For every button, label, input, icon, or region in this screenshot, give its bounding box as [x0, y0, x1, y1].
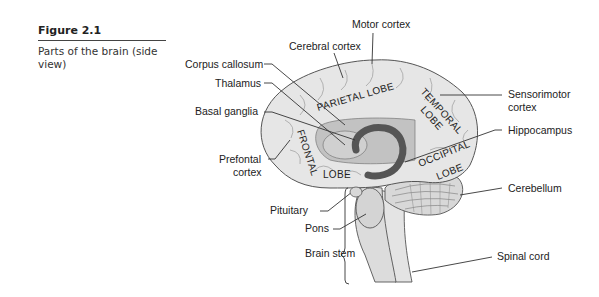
- label-thalamus: Thalamus: [215, 77, 261, 89]
- brain-diagram: PARIETAL LOBE TEMPORAL LOBE OCCIPITAL LO…: [0, 0, 599, 297]
- pituitary-shape: [350, 187, 362, 197]
- leader-cerebellum: [460, 188, 502, 195]
- label-pons: Pons: [305, 222, 329, 234]
- label-basal-ganglia: Basal ganglia: [195, 105, 258, 117]
- label-prefrontal-1: Prefontal: [219, 153, 261, 165]
- brain-stem-brace: [341, 188, 349, 284]
- label-corpus-callosum: Corpus callosum: [185, 58, 263, 70]
- label-sensorimotor-1: Sensorimotor: [508, 88, 571, 100]
- label-sensorimotor-2: cortex: [508, 101, 537, 113]
- label-spinal-cord: Spinal cord: [497, 250, 550, 262]
- label-pituitary: Pituitary: [270, 204, 309, 216]
- label-motor-cortex: Motor cortex: [352, 18, 411, 30]
- frontal-lobe-label-2: LOBE: [323, 169, 351, 180]
- label-brain-stem: Brain stem: [305, 247, 355, 259]
- leader-pituitary: [320, 192, 352, 211]
- leader-motor-cortex: [372, 33, 373, 64]
- label-prefrontal-2: cortex: [233, 166, 262, 178]
- label-hippocampus: Hippocampus: [508, 124, 572, 136]
- leader-spinal-cord: [412, 257, 492, 272]
- label-cerebellum: Cerebellum: [508, 182, 562, 194]
- label-cerebral-cortex: Cerebral cortex: [289, 40, 362, 52]
